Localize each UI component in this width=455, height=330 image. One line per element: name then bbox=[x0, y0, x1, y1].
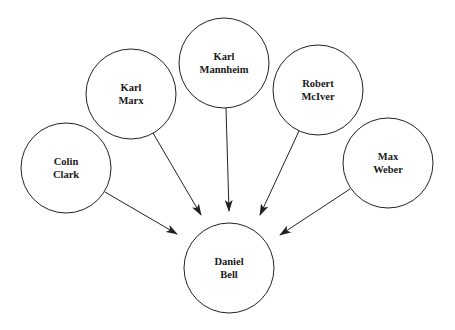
node-label-line1: Robert bbox=[273, 78, 363, 91]
arrow-weber-to-bell bbox=[280, 189, 350, 235]
node-label-line1: Karl bbox=[179, 51, 269, 64]
node-label-line2: Marx bbox=[86, 94, 176, 107]
node-label-line1: Colin bbox=[21, 156, 111, 169]
node-label-mannheim: KarlMannheim bbox=[179, 51, 269, 76]
node-label-line1: Karl bbox=[86, 82, 176, 95]
node-label-line1: Daniel bbox=[184, 256, 274, 269]
node-label-mciver: RobertMcIver bbox=[273, 78, 363, 103]
arrow-clark-to-bell bbox=[105, 192, 177, 234]
node-label-marx: KarlMarx bbox=[86, 82, 176, 107]
node-label-clark: ColinClark bbox=[21, 156, 111, 181]
node-label-line2: Clark bbox=[21, 168, 111, 181]
node-label-line2: McIver bbox=[273, 90, 363, 103]
node-label-line2: Weber bbox=[343, 163, 433, 176]
node-label-line2: Bell bbox=[184, 268, 274, 281]
node-label-weber: MaxWeber bbox=[343, 151, 433, 176]
node-label-line1: Max bbox=[343, 151, 433, 164]
arrow-mannheim-to-bell bbox=[226, 108, 229, 211]
arrow-mciver-to-bell bbox=[260, 131, 299, 215]
node-label-bell: DanielBell bbox=[184, 256, 274, 281]
arrow-marx-to-bell bbox=[153, 133, 201, 215]
node-label-line2: Mannheim bbox=[179, 63, 269, 76]
